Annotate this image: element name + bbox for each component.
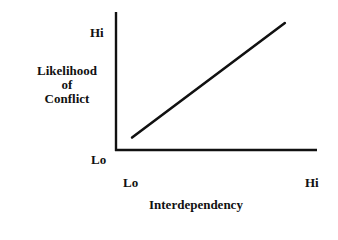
y-tick-hi: Hi [90,26,104,40]
x-tick-hi: Hi [305,176,319,190]
data-line [132,23,285,138]
y-tick-lo: Lo [91,153,106,167]
y-axis-label-line-1: Likelihood [28,64,106,78]
y-axis-label: Likelihood of Conflict [28,64,106,106]
y-axis-label-line-3: Conflict [28,92,106,106]
x-tick-lo: Lo [123,176,138,190]
x-axis-label: Interdependency [149,198,243,212]
y-axis-label-line-2: of [28,78,106,92]
